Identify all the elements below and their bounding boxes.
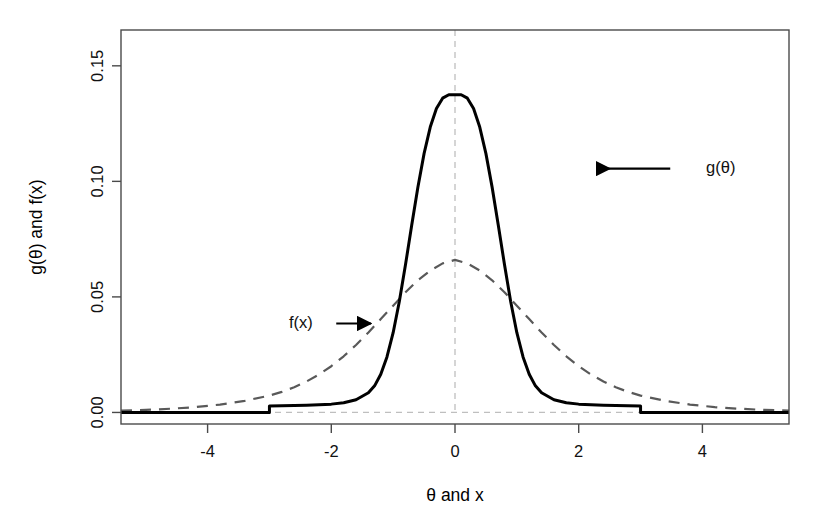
x-tick-label: -2 [324,442,339,460]
y-tick-label: 0.00 [88,396,106,428]
x-axis-title: θ and x [426,485,484,505]
y-tick-label: 0.10 [88,165,106,197]
x-tick-label: 2 [574,442,583,460]
x-tick-label: -4 [200,442,215,460]
gtheta-annotation-label: g(θ) [706,158,735,176]
y-tick-label: 0.15 [88,50,106,82]
fx-annotation-label: f(x) [289,313,313,331]
y-axis-title: g(θ) and f(x) [26,179,46,274]
chart-figure: -4-2024 0.000.050.100.15 θ and x g(θ) an… [0,0,826,524]
plot-canvas: -4-2024 0.000.050.100.15 θ and x g(θ) an… [0,0,826,524]
y-tick-label: 0.05 [88,281,106,313]
x-tick-label: 4 [698,442,707,460]
x-tick-label: 0 [450,442,459,460]
